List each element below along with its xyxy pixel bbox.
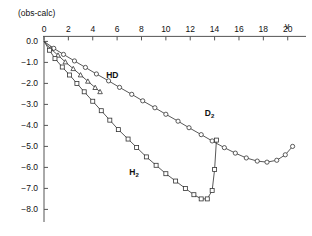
data-point-marker: [199, 133, 203, 137]
data-point-marker: [174, 179, 178, 183]
data-point-marker: [154, 163, 158, 167]
data-point-marker: [210, 189, 214, 193]
data-point-marker: [275, 158, 279, 162]
y-tick-label: 0.0: [26, 36, 38, 46]
y-tick-label: −4.0: [21, 120, 38, 130]
data-point-marker: [75, 81, 79, 85]
data-point-marker: [205, 197, 209, 201]
data-point-marker: [82, 90, 86, 94]
data-point-marker: [141, 99, 145, 103]
y-tick-label: −5.0: [21, 141, 38, 151]
data-point-marker: [210, 139, 214, 143]
data-point-marker: [199, 197, 203, 201]
data-point-marker: [53, 57, 57, 61]
data-point-marker: [108, 118, 112, 122]
series-label-HD: HD: [106, 70, 118, 80]
data-point-marker: [94, 72, 98, 76]
data-point-marker: [214, 138, 218, 142]
y-tick-label: −2.0: [21, 78, 38, 88]
y-tick-label: −6.0: [21, 162, 38, 172]
data-point-marker: [117, 85, 121, 89]
y-tick-label: −8.0: [21, 204, 38, 214]
data-point-marker: [116, 128, 120, 132]
y-tick-labels: 0.0−1.0−2.0−3.0−4.0−5.0−6.0−7.0−8.0: [21, 36, 38, 214]
data-point-marker: [183, 186, 187, 190]
x-tick-label: 0: [42, 24, 47, 34]
data-point-marker: [144, 155, 148, 159]
data-point-marker: [283, 153, 287, 157]
data-point-marker: [164, 172, 168, 176]
chart-container: 02468101214161820 0.0−1.0−2.0−3.0−4.0−5.…: [0, 0, 312, 236]
data-point-marker: [164, 112, 168, 116]
data-point-marker: [99, 109, 103, 113]
y-tick-label: −7.0: [21, 183, 38, 193]
data-point-marker: [153, 106, 157, 110]
data-point-marker: [255, 159, 259, 163]
data-point-marker: [192, 193, 196, 197]
data-point-marker: [130, 92, 134, 96]
x-tick-label: 10: [161, 24, 171, 34]
data-point-marker: [222, 146, 226, 150]
data-point-marker: [176, 119, 180, 123]
x-tick-label: 14: [210, 24, 220, 34]
data-point-marker: [126, 137, 130, 141]
x-tick-label: 16: [234, 24, 244, 34]
x-tick-label: 6: [115, 24, 120, 34]
obs-calc-vs-v-plot: 02468101214161820 0.0−1.0−2.0−3.0−4.0−5.…: [0, 0, 312, 236]
data-point-marker: [68, 73, 72, 77]
plot-background: [0, 0, 312, 236]
data-point-marker: [72, 59, 76, 63]
data-point-marker: [60, 65, 64, 69]
y-axis-title: (obs-calc): [18, 8, 55, 18]
data-point-marker: [61, 52, 65, 56]
data-point-marker: [91, 99, 95, 103]
x-tick-label: 12: [185, 24, 195, 34]
y-tick-label: −1.0: [21, 57, 38, 67]
x-tick-label: 2: [66, 24, 71, 34]
x-tick-label: 8: [139, 24, 144, 34]
data-point-marker: [135, 145, 139, 149]
data-point-marker: [233, 151, 237, 155]
data-point-marker: [83, 65, 87, 69]
data-point-marker: [290, 144, 294, 148]
data-point-marker: [187, 126, 191, 130]
data-point-marker: [244, 156, 248, 160]
x-tick-label: 4: [90, 24, 95, 34]
data-point-marker: [213, 168, 217, 172]
x-tick-label: 18: [259, 24, 269, 34]
y-tick-label: −3.0: [21, 99, 38, 109]
data-point-marker: [47, 48, 51, 52]
data-point-marker: [265, 160, 269, 164]
